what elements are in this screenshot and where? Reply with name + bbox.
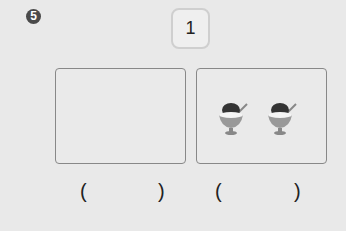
answer-close-paren-left: ) [158,180,165,203]
shaved-ice-bowl-icon [217,100,251,136]
answer-open-paren-left: ( [80,180,87,203]
problem-number: 5 [26,9,41,24]
left-box [55,68,186,164]
answer-open-paren-right: ( [215,180,222,203]
answer-close-paren-right: ) [294,180,301,203]
top-number-box: 1 [171,8,210,49]
right-box [196,68,327,164]
shaved-ice-bowl-icon [266,100,300,136]
